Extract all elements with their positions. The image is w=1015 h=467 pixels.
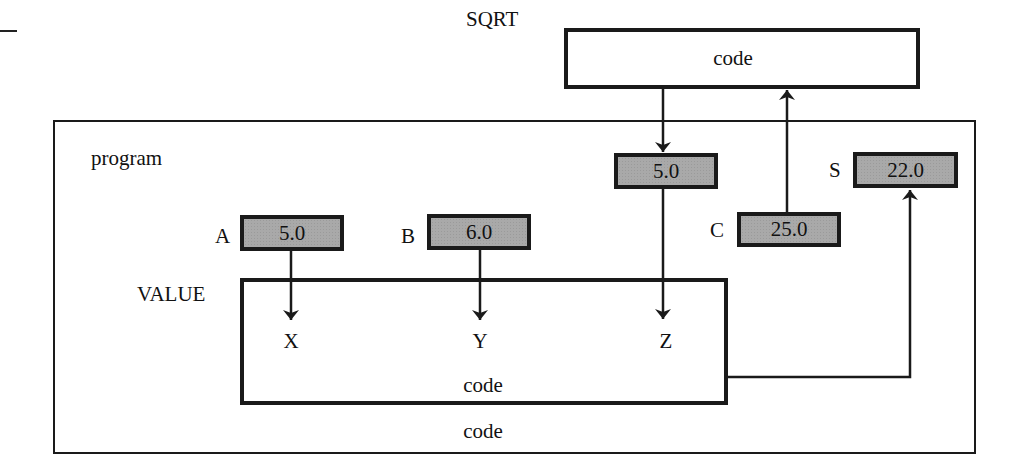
arrow-value-to-s — [728, 190, 910, 377]
flow-arrows — [0, 0, 1015, 467]
